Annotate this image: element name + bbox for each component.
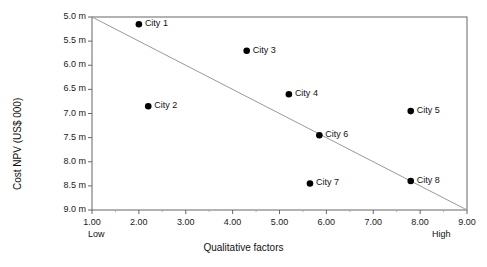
data-point-marker <box>407 178 414 185</box>
y-axis-tick-label: 9.0 m <box>40 204 86 214</box>
axis-ticks <box>88 17 467 214</box>
data-point-label: City 8 <box>417 175 440 185</box>
x-axis-tick-label: 6.00 <box>306 217 346 227</box>
y-axis-tick-label: 5.5 m <box>40 35 86 45</box>
data-point-marker <box>243 47 250 54</box>
x-axis-tick-label: 5.00 <box>260 217 300 227</box>
scatter-chart: 5.0 m5.5 m6.0 m6.5 m7.0 m7.5 m8.0 m8.5 m… <box>0 0 487 267</box>
data-point-marker <box>286 91 293 98</box>
x-axis-tick-label: 3.00 <box>166 217 206 227</box>
data-point-label: City 4 <box>295 88 318 98</box>
x-axis-tick-label: 7.00 <box>353 217 393 227</box>
x-axis-tick-label: 2.00 <box>119 217 159 227</box>
x-axis-tick-label: 4.00 <box>213 217 253 227</box>
data-point-marker <box>136 21 143 28</box>
y-axis-tick-label: 7.5 m <box>40 132 86 142</box>
x-axis-title: Qualitative factors <box>0 242 487 253</box>
data-point-label: City 6 <box>325 129 348 139</box>
y-axis-tick-label: 6.0 m <box>40 59 86 69</box>
x-axis-tick-label: 8.00 <box>400 217 440 227</box>
data-point-label: City 5 <box>417 105 440 115</box>
data-point-label: City 3 <box>253 45 276 55</box>
data-point-label: City 1 <box>145 18 168 28</box>
data-point-marker <box>407 108 414 115</box>
data-point-label: City 2 <box>154 100 177 110</box>
y-axis-title: Cost NPV (US$ 000) <box>12 98 23 190</box>
x-axis-tick-label: 9.00 <box>447 217 487 227</box>
x-axis-tick-label: 1.00 <box>72 217 112 227</box>
x-axis-high-anchor-label: High <box>432 229 451 239</box>
data-point-marker <box>307 180 314 187</box>
y-axis-tick-label: 5.0 m <box>40 11 86 21</box>
data-point-marker <box>145 103 152 110</box>
y-axis-tick-label: 7.0 m <box>40 108 86 118</box>
data-point-marker <box>316 132 323 139</box>
y-axis-tick-label: 6.5 m <box>40 83 86 93</box>
data-point-label: City 7 <box>316 177 339 187</box>
x-axis-low-anchor-label: Low <box>88 229 105 239</box>
y-axis-tick-label: 8.0 m <box>40 156 86 166</box>
y-axis-tick-label: 8.5 m <box>40 180 86 190</box>
